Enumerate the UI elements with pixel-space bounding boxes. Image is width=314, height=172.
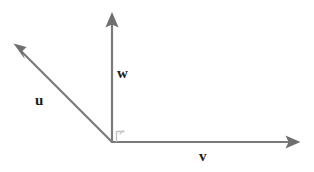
vector-diagram-canvas: u w v <box>0 0 314 172</box>
vector-u <box>14 44 113 143</box>
arrow-up-left-icon <box>14 44 27 60</box>
vector-v <box>112 135 301 148</box>
vector-label-w: w <box>117 66 128 81</box>
vector-diagram-svg <box>0 0 314 172</box>
vector-label-v: v <box>199 149 207 164</box>
vector-label-u: u <box>35 93 43 108</box>
